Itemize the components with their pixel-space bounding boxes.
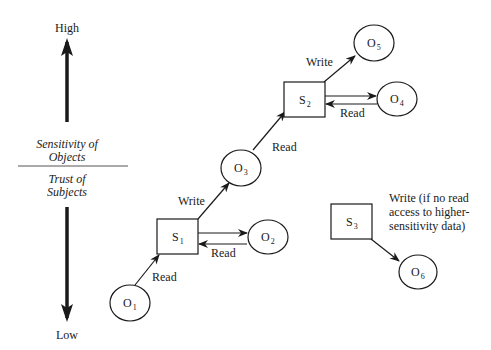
lower-caption-line1: Trust of <box>48 172 87 186</box>
edge-label-o2-s1: Read <box>211 246 236 260</box>
object-o5: O5 <box>354 25 394 61</box>
lower-caption-line2: Subjects <box>47 185 87 199</box>
subject-s1: S1 <box>157 219 198 254</box>
object-o6: O6 <box>399 255 437 289</box>
subject-s3: S3 <box>331 204 372 239</box>
high-label: High <box>55 21 79 35</box>
upper-caption-line1: Sensitivity of <box>36 137 99 151</box>
edge-label-o3-s2: Read <box>272 140 297 154</box>
s3-note-line1: Write (if no read <box>389 191 469 205</box>
diagram-canvas: High Sensitivity of Objects Trust of Sub… <box>0 0 491 350</box>
edge-s3-o6 <box>371 239 399 261</box>
edge-label-o4-s2: Read <box>340 106 365 120</box>
edge-label-o1-s1: Read <box>152 270 177 284</box>
object-o3: O3 <box>221 150 261 186</box>
subject-s2: S2 <box>284 82 325 117</box>
edge-label-s2-o5: Write <box>306 55 333 69</box>
object-o1: O1 <box>110 285 150 321</box>
upper-caption-line2: Objects <box>49 150 86 164</box>
s3-write-note: Write (if no read access to higher- sens… <box>389 191 469 233</box>
s3-note-line3: sensitivity data) <box>389 219 465 233</box>
object-o4: O4 <box>377 82 417 116</box>
sensitivity-axis: High Sensitivity of Objects Trust of Sub… <box>18 21 128 342</box>
edge-label-s1-o3: Write <box>178 194 205 208</box>
low-label: Low <box>56 328 78 342</box>
object-o2: O2 <box>248 220 288 254</box>
s3-note-line2: access to higher- <box>389 205 469 219</box>
